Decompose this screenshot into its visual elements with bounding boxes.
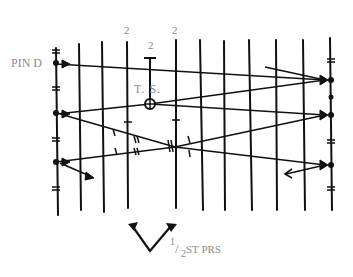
vertical-thread-7 [224,41,225,210]
working-threads [56,64,325,177]
vertical-thread-10 [303,40,305,210]
half-stitch-v-icon [133,226,171,251]
tick-marks [52,50,335,190]
diagram-svg [0,0,353,277]
thread-cross-down [60,114,175,147]
vertical-thread-8 [249,40,252,210]
arrowhead-bottom-left [85,172,94,180]
arrowhead-right-2 [320,110,328,120]
vertical-threads [56,38,332,215]
pin-label: PIN D [11,56,42,71]
ts-label: T. S. [134,82,161,97]
arrowhead-right-3 [320,160,328,170]
fraction-slash: / [175,241,179,257]
top-number-3: 2 [172,24,178,36]
arrowhead-right-1 [320,75,328,85]
top-number-2: 2 [148,39,154,51]
arrowhead-left-1 [62,60,70,68]
vertical-thread-2 [79,44,81,210]
vertical-thread-4 [127,42,128,208]
top-number-1: 2 [124,24,130,36]
ts-marker-icon [145,99,155,109]
vertical-thread-6 [200,40,203,210]
vertical-thread-11 [330,38,332,210]
stitch-pairs-label: ST PRS [186,243,221,255]
diagram-canvas: PIN D T. S. 2 2 2 1 / 2 ST PRS [0,0,353,277]
nodes [53,60,334,168]
